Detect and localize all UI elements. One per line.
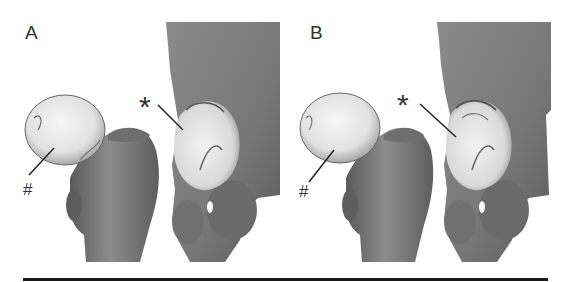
figure-divider-rule bbox=[23, 278, 548, 281]
femoral-head-marker-b: # bbox=[299, 182, 308, 202]
femur-acetabulum-rendering-a bbox=[0, 0, 284, 270]
panel-label-b: B bbox=[310, 22, 323, 44]
panel-b: B # * bbox=[284, 0, 568, 270]
femur-acetabulum-rendering-b bbox=[284, 0, 568, 270]
femoral-head bbox=[25, 95, 105, 165]
panel-a: A # * bbox=[0, 0, 284, 270]
acetabulum-marker-b: * bbox=[397, 90, 409, 120]
panel-label-a: A bbox=[25, 22, 38, 44]
femoral-head bbox=[300, 93, 380, 163]
acetabulum-marker-a: * bbox=[139, 92, 151, 122]
femoral-head-marker-a: # bbox=[23, 180, 32, 200]
